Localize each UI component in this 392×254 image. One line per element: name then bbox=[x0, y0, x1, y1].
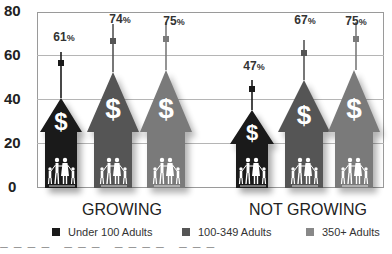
legend-label: 350+ Adults bbox=[322, 226, 380, 238]
legend-item-under-100: Under 100 Adults bbox=[52, 226, 152, 238]
legend-item-350-plus: 350+ Adults bbox=[306, 226, 380, 238]
value-label-growing-under-100: 61% bbox=[44, 30, 84, 44]
value-label-not-growing-100-349: 67% bbox=[285, 13, 325, 27]
svg-text:$: $ bbox=[246, 120, 258, 145]
bar-not-growing-350-plus: $ bbox=[328, 22, 384, 193]
svg-text:$: $ bbox=[105, 93, 121, 124]
value-label-not-growing-under-100: 47% bbox=[234, 59, 274, 73]
category-label-growing: GROWING bbox=[82, 201, 162, 219]
value-label-growing-350-plus: 75% bbox=[154, 14, 194, 28]
legend-label: Under 100 Adults bbox=[68, 226, 152, 238]
bar-not-growing-under-100: $ bbox=[230, 80, 278, 193]
bar-not-growing-100-349: $ bbox=[278, 40, 334, 193]
svg-text:$: $ bbox=[158, 93, 174, 124]
legend-item-100-349: 100-349 Adults bbox=[182, 226, 271, 238]
bar-growing-350-plus: $ bbox=[140, 22, 196, 193]
value-label-not-growing-350-plus: 75% bbox=[336, 14, 376, 28]
legend-swatch-icon bbox=[182, 228, 190, 236]
legend-swatch-icon bbox=[306, 228, 314, 236]
bar-growing-under-100: $ bbox=[40, 52, 86, 193]
value-label-growing-100-349: 74% bbox=[100, 12, 140, 26]
legend-swatch-icon bbox=[52, 228, 60, 236]
legend-label: 100-349 Adults bbox=[198, 226, 271, 238]
svg-text:$: $ bbox=[297, 100, 312, 130]
svg-text:$: $ bbox=[54, 108, 68, 135]
bar-growing-100-349: $ bbox=[87, 24, 143, 193]
category-label-not-growing: NOT GROWING bbox=[248, 201, 368, 219]
cropped-caption-fragment: ▀▀▀▀ ▀▀▀ ▀▀▀▀ ▀▀▀ bbox=[0, 247, 392, 254]
svg-text:$: $ bbox=[346, 93, 362, 124]
